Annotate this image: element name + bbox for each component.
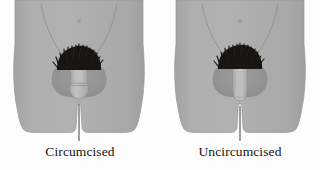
figure-label-uncircumcised: Uncircumcised <box>160 145 320 159</box>
navel-marker <box>77 19 81 24</box>
navel-marker <box>238 19 242 24</box>
figure-label-circumcised: Circumcised <box>0 145 160 159</box>
figure-uncircumcised <box>175 0 306 141</box>
figure-circumcised <box>14 0 145 141</box>
